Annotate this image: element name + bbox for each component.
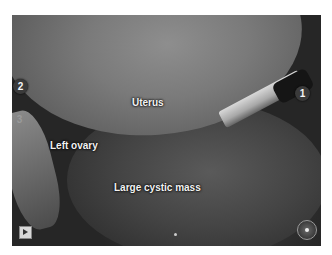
play-icon xyxy=(23,229,28,235)
light-reflection xyxy=(174,233,177,236)
label-uterus: Uterus xyxy=(132,97,164,108)
record-icon xyxy=(305,228,309,232)
marker-2: 2 xyxy=(13,79,28,94)
marker-1: 1 xyxy=(295,86,310,101)
play-button[interactable] xyxy=(19,226,32,239)
label-large-cystic-mass: Large cystic mass xyxy=(114,182,201,193)
laparoscopic-video-frame: Uterus Left ovary Large cystic mass 1 2 … xyxy=(12,15,321,246)
marker-3: 3 xyxy=(12,112,27,127)
record-button[interactable] xyxy=(297,220,317,240)
label-left-ovary: Left ovary xyxy=(50,140,98,151)
